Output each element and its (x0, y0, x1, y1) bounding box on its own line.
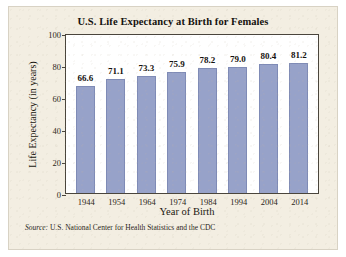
bar-slot: 81.2 (284, 35, 315, 193)
x-axis-title: Year of Birth (55, 206, 319, 217)
y-axis-tick-label: 60 (53, 94, 67, 104)
bar-slot: 66.6 (70, 35, 101, 193)
y-axis-tick-label: 40 (53, 126, 67, 136)
plot-area: 020406080100 66.671.173.375.978.279.080.… (65, 34, 319, 194)
bar[interactable] (106, 79, 125, 193)
bar-slot: 80.4 (253, 35, 284, 193)
bar-slot: 75.9 (162, 35, 193, 193)
bar-value-label: 78.2 (199, 55, 215, 65)
bar[interactable] (198, 68, 217, 193)
y-axis-tick-label: 20 (53, 158, 67, 168)
bar-slot: 73.3 (131, 35, 162, 193)
bar-value-label: 73.3 (138, 63, 154, 73)
bar-series: 66.671.173.375.978.279.080.481.2 (66, 35, 318, 193)
bar[interactable] (137, 76, 156, 193)
y-axis-tick-label: 80 (53, 62, 67, 72)
chart-title: U.S. Life Expectancy at Birth for Female… (9, 16, 337, 27)
bar-value-label: 81.2 (291, 50, 307, 60)
bar-value-label: 71.1 (108, 66, 124, 76)
bar[interactable] (259, 64, 278, 193)
source-text: U.S. National Center for Health Statisti… (50, 223, 215, 232)
source-note: Source: U.S. National Center for Health … (25, 223, 215, 232)
source-prefix: Source: (25, 223, 48, 232)
bar-slot: 78.2 (192, 35, 223, 193)
bar[interactable] (228, 67, 247, 193)
bar-value-label: 80.4 (260, 51, 276, 61)
y-axis-tick-label: 100 (48, 30, 66, 40)
y-axis-title: Life Expectancy (in years) (27, 45, 38, 185)
bar[interactable] (76, 86, 95, 193)
bar[interactable] (289, 63, 308, 193)
bar-value-label: 66.6 (77, 73, 93, 83)
bar-value-label: 79.0 (230, 54, 246, 64)
figure-panel: U.S. Life Expectancy at Birth for Female… (8, 6, 338, 250)
bar-slot: 79.0 (223, 35, 254, 193)
y-axis-tick-label: 0 (57, 190, 66, 200)
bar-slot: 71.1 (101, 35, 132, 193)
bar-value-label: 75.9 (169, 59, 185, 69)
bar[interactable] (167, 72, 186, 193)
